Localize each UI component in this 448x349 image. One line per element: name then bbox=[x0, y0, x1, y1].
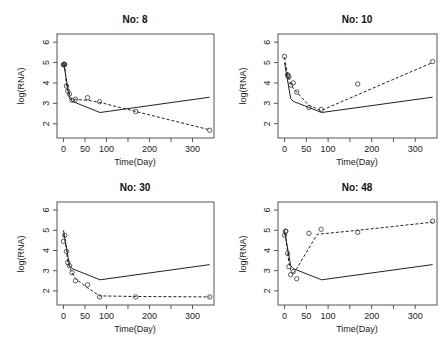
y-axis-label: log(RNA) bbox=[16, 67, 26, 104]
plot-frame bbox=[278, 202, 437, 305]
population-fit-line bbox=[285, 230, 433, 279]
y-tick-label: 6 bbox=[41, 208, 51, 213]
x-tick-label: 200 bbox=[142, 311, 157, 321]
y-axis-label: log(RNA) bbox=[16, 235, 26, 272]
data-point bbox=[430, 59, 434, 63]
x-tick-label: 100 bbox=[99, 311, 114, 321]
y-tick-label: 2 bbox=[41, 288, 51, 293]
plot-frame bbox=[57, 202, 214, 305]
x-tick-label: 300 bbox=[185, 311, 200, 321]
x-tick-label: 200 bbox=[364, 311, 379, 321]
x-tick-label: 50 bbox=[301, 144, 311, 154]
data-point bbox=[430, 219, 434, 223]
data-point bbox=[85, 95, 89, 99]
y-tick-label: 4 bbox=[262, 248, 272, 253]
figure: No: 8 Time(Day) log(RNA) 050100200300234… bbox=[0, 0, 448, 349]
x-axis-label: Time(Day) bbox=[336, 324, 378, 334]
x-tick-label: 200 bbox=[142, 144, 157, 154]
x-tick-label: 50 bbox=[301, 311, 311, 321]
individual-fit-line bbox=[64, 234, 210, 297]
panel-title: No: 10 bbox=[342, 14, 373, 25]
individual-fit-line bbox=[285, 222, 433, 273]
individual-fit-line bbox=[285, 58, 433, 111]
x-tick-label: 100 bbox=[321, 144, 336, 154]
y-tick-label: 5 bbox=[262, 228, 272, 233]
y-tick-label: 4 bbox=[41, 80, 51, 85]
population-fit-line bbox=[285, 63, 433, 113]
data-point bbox=[319, 227, 323, 231]
data-point bbox=[207, 128, 211, 132]
data-point bbox=[287, 264, 291, 268]
x-axis-label: Time(Day) bbox=[114, 324, 156, 334]
data-point bbox=[85, 283, 89, 287]
x-tick-label: 200 bbox=[364, 144, 379, 154]
y-tick-label: 3 bbox=[41, 268, 51, 273]
y-tick-label: 6 bbox=[262, 208, 272, 213]
panel-title: No: 30 bbox=[120, 182, 151, 193]
x-tick-label: 0 bbox=[61, 311, 66, 321]
data-point bbox=[70, 270, 74, 274]
panel-title: No: 8 bbox=[123, 14, 148, 25]
y-tick-label: 4 bbox=[262, 80, 272, 85]
x-tick-label: 300 bbox=[408, 311, 423, 321]
panel-no-48: No: 48 Time(Day) log(RNA) 05010020030023… bbox=[238, 182, 437, 334]
x-tick-label: 300 bbox=[408, 144, 423, 154]
data-point bbox=[307, 231, 311, 235]
y-tick-label: 3 bbox=[41, 101, 51, 106]
y-tick-label: 6 bbox=[262, 40, 272, 45]
x-tick-label: 0 bbox=[61, 144, 66, 154]
data-point bbox=[295, 277, 299, 281]
panel-no-30: No: 30 Time(Day) log(RNA) 05010020030023… bbox=[16, 182, 214, 334]
x-tick-label: 50 bbox=[80, 144, 90, 154]
y-tick-label: 4 bbox=[41, 248, 51, 253]
panel-no-8: No: 8 Time(Day) log(RNA) 050100200300234… bbox=[16, 14, 214, 167]
y-tick-label: 5 bbox=[262, 60, 272, 65]
x-tick-label: 100 bbox=[321, 311, 336, 321]
y-tick-label: 3 bbox=[262, 101, 272, 106]
y-tick-label: 6 bbox=[41, 40, 51, 45]
y-axis-label: log(RNA) bbox=[238, 67, 248, 104]
population-fit-line bbox=[64, 230, 210, 279]
x-tick-label: 0 bbox=[282, 144, 287, 154]
y-tick-label: 3 bbox=[262, 268, 272, 273]
y-tick-label: 5 bbox=[41, 228, 51, 233]
y-axis-label: log(RNA) bbox=[238, 235, 248, 272]
x-tick-label: 100 bbox=[99, 144, 114, 154]
y-tick-label: 2 bbox=[262, 121, 272, 126]
population-fit-line bbox=[64, 63, 210, 113]
x-tick-label: 300 bbox=[185, 144, 200, 154]
x-axis-label: Time(Day) bbox=[114, 157, 156, 167]
plot-frame bbox=[57, 34, 214, 138]
y-tick-label: 5 bbox=[41, 60, 51, 65]
x-tick-label: 50 bbox=[80, 311, 90, 321]
data-point bbox=[356, 82, 360, 86]
panel-title: No: 48 bbox=[342, 182, 373, 193]
x-axis-label: Time(Day) bbox=[336, 157, 378, 167]
panel-no-10: No: 10 Time(Day) log(RNA) 05010020030023… bbox=[238, 14, 437, 167]
y-tick-label: 2 bbox=[41, 121, 51, 126]
x-tick-label: 0 bbox=[282, 311, 287, 321]
y-tick-label: 2 bbox=[262, 288, 272, 293]
data-point bbox=[97, 100, 101, 104]
